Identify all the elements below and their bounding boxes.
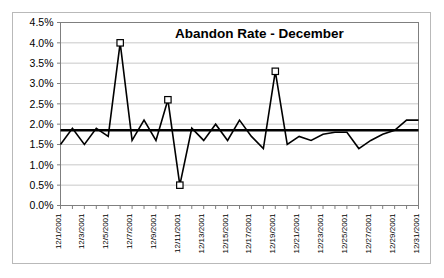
x-tick-label: 12/19/2001 [268,213,277,254]
data-line-abandon-rate [61,43,419,185]
y-tick-label: 0.0% [30,199,54,211]
y-tick-label: 1.5% [30,138,54,150]
y-tick-label: 1.0% [30,159,54,171]
y-tick-label: 0.5% [30,179,54,191]
x-tick-label: 12/21/2001 [292,213,301,254]
x-axis: 12/1/200112/3/200112/5/200112/7/200112/9… [54,206,421,254]
x-tick-label: 12/23/2001 [316,213,325,254]
y-tick-label: 4.0% [30,37,54,49]
x-tick-label: 12/17/2001 [244,213,253,254]
x-tick-label: 12/1/2001 [54,213,63,249]
x-tick-label: 12/7/2001 [125,213,134,249]
y-tick-label: 2.5% [30,98,54,110]
x-tick-label: 12/9/2001 [149,213,158,249]
plot-area-border [61,23,419,206]
data-point-marker [165,97,171,103]
x-tick-label: 12/5/2001 [101,213,110,249]
y-tick-label: 4.5% [30,16,54,28]
abandon-rate-line-chart: 0.0%0.5%1.0%1.5%2.0%2.5%3.0%3.5%4.0%4.5%… [0,0,444,278]
y-tick-label: 3.0% [30,77,54,89]
x-tick-label: 12/15/2001 [221,213,230,254]
x-tick-label: 12/27/2001 [364,213,373,254]
x-tick-label: 12/25/2001 [340,213,349,254]
data-point-marker [117,40,123,46]
data-point-marker [177,182,183,188]
y-axis: 0.0%0.5%1.0%1.5%2.0%2.5%3.0%3.5%4.0%4.5% [30,16,61,211]
x-tick-label: 12/11/2001 [173,213,182,253]
x-tick-label: 12/3/2001 [77,213,86,249]
chart-title: Abandon Rate - December [175,26,345,41]
x-tick-label: 12/29/2001 [388,213,397,254]
data-point-marker [272,68,278,74]
x-tick-label: 12/31/2001 [412,213,421,254]
chart-screenshot: 0.0%0.5%1.0%1.5%2.0%2.5%3.0%3.5%4.0%4.5%… [0,0,444,278]
x-tick-label: 12/13/2001 [197,213,206,254]
gridlines [61,23,419,186]
y-tick-label: 3.5% [30,57,54,69]
y-tick-label: 2.0% [30,118,54,130]
data-markers [117,40,279,189]
